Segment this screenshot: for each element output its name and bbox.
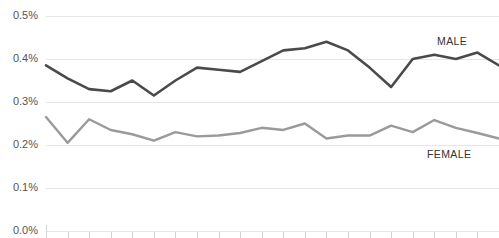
data-series (46, 42, 499, 143)
series-label-male: MALE (437, 35, 467, 47)
gridlines (46, 17, 499, 232)
y-axis-labels: 0.5%0.4%0.3%0.2%0.1%0.0% (13, 9, 38, 236)
y-axis-tick-label: 0.0% (13, 224, 38, 236)
y-axis-tick-label: 0.1% (13, 181, 38, 193)
series-line-female (46, 117, 499, 143)
series-label-female: FEMALE (427, 148, 471, 160)
y-axis-tick-label: 0.4% (13, 52, 38, 64)
y-axis-tick-label: 0.2% (13, 138, 38, 150)
y-axis-tick-label: 0.3% (13, 95, 38, 107)
y-axis-tick-label: 0.5% (13, 9, 38, 21)
x-axis-tick-marks (47, 232, 499, 238)
line-chart-container: 0.5%0.4%0.3%0.2%0.1%0.0% MALEFEMALE (0, 0, 499, 238)
chart-canvas: 0.5%0.4%0.3%0.2%0.1%0.0% MALEFEMALE (0, 0, 499, 238)
series-line-male (46, 42, 499, 96)
